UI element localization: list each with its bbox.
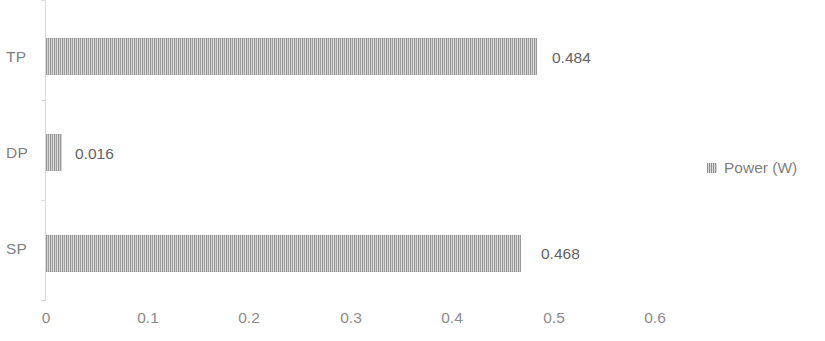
x-axis-tick-label-5: 0.5 [543,310,565,326]
value-label-tp: 0.484 [552,50,591,66]
y-axis-tick [41,100,45,101]
x-axis-tick-label-3: 0.3 [340,310,362,326]
legend-entry-label: Power (W) [724,160,797,176]
value-label-dp: 0.016 [75,146,114,162]
bar-tp [46,38,537,75]
chart-legend: Power (W) [707,160,797,176]
x-axis-tick-label-4: 0.4 [441,310,463,326]
bar-chart: TP 0.484 DP 0.016 SP 0.468 0 0.1 0.2 0.3… [0,0,825,341]
x-axis-tick-label-6: 0.6 [644,310,666,326]
bar-sp [46,235,521,272]
bar-dp [46,134,62,171]
category-label-dp: DP [0,145,36,161]
category-label-tp: TP [0,49,36,65]
value-label-sp: 0.468 [541,246,580,262]
x-axis-tick-label-0: 0 [42,310,51,326]
y-axis-tick [41,0,45,1]
hatched-square-marker-icon [707,163,717,173]
y-axis-tick [41,200,45,201]
x-axis-tick-label-1: 0.1 [137,310,159,326]
y-axis-tick [41,300,45,301]
plot-area: TP 0.484 DP 0.016 SP 0.468 0 0.1 0.2 0.3… [0,0,690,341]
x-axis-tick-label-2: 0.2 [238,310,260,326]
category-label-sp: SP [0,241,36,257]
